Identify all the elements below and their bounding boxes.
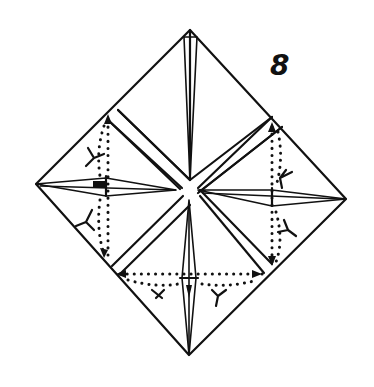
origami-diagram bbox=[0, 0, 374, 387]
bottom-flap bbox=[180, 200, 198, 355]
center-point bbox=[186, 187, 194, 195]
center-x-creases bbox=[108, 110, 282, 274]
top-flap bbox=[108, 30, 282, 193]
left-flap bbox=[36, 176, 176, 196]
